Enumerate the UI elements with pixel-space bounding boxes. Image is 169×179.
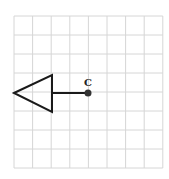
point-c-dot — [85, 90, 92, 97]
grid-diagram: C — [0, 0, 169, 179]
point-c-label: C — [84, 77, 92, 88]
